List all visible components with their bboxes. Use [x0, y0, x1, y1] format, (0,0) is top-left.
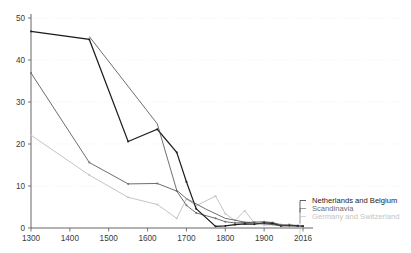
- data-point-marker: [244, 210, 246, 212]
- y-tick-label-40: 40: [16, 56, 26, 65]
- x-axis-ticks: [31, 228, 303, 232]
- data-point-marker: [156, 183, 158, 185]
- data-point-marker: [234, 224, 236, 226]
- x-tick-label-1500: 1500: [100, 234, 119, 243]
- y-tick-label-0: 0: [20, 224, 25, 233]
- data-point-marker: [127, 196, 129, 198]
- legend-connector-1: [300, 201, 306, 213]
- axes-group: [31, 14, 313, 228]
- data-point-marker: [127, 141, 129, 143]
- data-point-marker: [272, 223, 274, 225]
- y-tick-label-30: 30: [16, 98, 26, 107]
- data-point-marker: [88, 174, 90, 176]
- data-point-marker: [30, 31, 32, 33]
- data-point-marker: [156, 204, 158, 206]
- series-line-scandinavia: [31, 73, 303, 226]
- data-point-marker: [195, 208, 197, 210]
- x-tick-label-2016: 2016: [294, 234, 313, 243]
- data-point-marker: [88, 39, 90, 41]
- data-point-marker: [215, 217, 217, 219]
- x-tick-label-1800: 1800: [216, 234, 235, 243]
- y-tick-label-10: 10: [16, 182, 26, 191]
- data-point-marker: [88, 162, 90, 164]
- data-point-marker: [244, 223, 246, 225]
- data-point-marker: [234, 222, 236, 224]
- x-axis-tick-labels: 13001400150016001700180019002016: [22, 234, 313, 243]
- x-tick-label-1900: 1900: [255, 234, 274, 243]
- y-axis-tick-labels: 01020304050: [16, 14, 26, 233]
- y-tick-label-20: 20: [16, 140, 26, 149]
- x-tick-label-1400: 1400: [61, 234, 80, 243]
- legend-connector-2: [300, 209, 306, 224]
- data-point-marker: [263, 224, 265, 226]
- series-line-netherlands-and-belgium-secondary: [89, 36, 303, 226]
- data-point-marker: [186, 204, 188, 206]
- y-tick-label-50: 50: [16, 14, 26, 23]
- data-point-marker: [186, 181, 188, 183]
- data-point-marker: [224, 225, 226, 227]
- x-tick-label-1600: 1600: [138, 234, 157, 243]
- data-point-marker: [195, 212, 197, 214]
- data-point-marker: [215, 225, 217, 227]
- chart-canvas: 01020304050 1300140015001600170018001900…: [0, 0, 411, 253]
- gridlines-group: [32, 18, 400, 186]
- data-point-marker: [224, 221, 226, 223]
- chart-legend: Netherlands and BelgiumScandinaviaGerman…: [300, 196, 399, 234]
- series-line-germany-and-switzerland: [31, 135, 303, 226]
- data-point-marker: [30, 72, 32, 74]
- legend-label-germany-and-switzerland: Germany and Switzerland: [312, 212, 399, 221]
- x-tick-label-1700: 1700: [177, 234, 196, 243]
- data-point-marker: [215, 195, 217, 197]
- line-chart: 01020304050 1300140015001600170018001900…: [0, 0, 411, 253]
- data-point-marker: [30, 134, 32, 136]
- data-point-marker: [254, 223, 256, 225]
- data-point-marker: [156, 128, 158, 130]
- series-line-netherlands-and-belgium: [31, 31, 303, 226]
- data-point-marker: [127, 183, 129, 185]
- data-point-marker: [176, 217, 178, 219]
- x-tick-label-1300: 1300: [22, 234, 41, 243]
- data-point-marker: [224, 213, 226, 215]
- data-point-marker: [176, 152, 178, 154]
